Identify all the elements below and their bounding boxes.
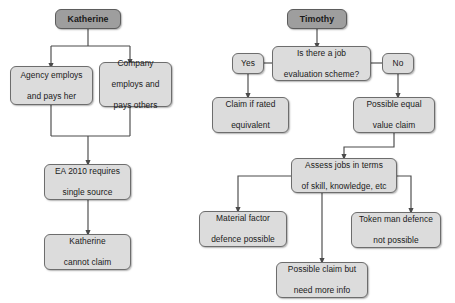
node-timothy-root[interactable]: Timothy (287, 9, 347, 29)
node-token-man-defence-label: Token man defencenot possible (355, 214, 437, 246)
node-claim-if-rated-equivalent-label: Claim if ratedequivalent (216, 99, 285, 131)
node-katherine-cannot-claim[interactable]: Katherinecannot claim (44, 234, 131, 270)
flowchart-canvas: Katherine Agency employsand pays her Com… (0, 0, 455, 303)
node-material-factor-defence[interactable]: Material factordefence possible (199, 211, 287, 247)
node-timothy-root-label: Timothy (291, 14, 343, 25)
node-job-evaluation-scheme[interactable]: Is there a jobevaluation scheme? (272, 46, 371, 81)
node-possible-claim-more-info[interactable]: Possible claim butneed more info (276, 262, 368, 298)
node-job-evaluation-scheme-label: Is there a jobevaluation scheme? (276, 48, 367, 80)
node-possible-claim-more-info-label: Possible claim butneed more info (280, 264, 364, 296)
node-katherine-root-label: Katherine (59, 14, 117, 25)
node-ea-2010-label: EA 2010 requiressingle source (48, 166, 127, 198)
node-katherine-root[interactable]: Katherine (55, 9, 121, 29)
node-branch-no-label: No (386, 58, 410, 69)
node-agency-employs[interactable]: Agency employsand pays her (10, 66, 93, 105)
node-ea-2010[interactable]: EA 2010 requiressingle source (44, 164, 131, 200)
edge-possible-equal-to-assess (344, 133, 394, 157)
node-katherine-cannot-claim-label: Katherinecannot claim (48, 236, 127, 268)
node-branch-yes[interactable]: Yes (232, 53, 264, 74)
node-agency-employs-label: Agency employsand pays her (14, 70, 89, 102)
node-claim-if-rated-equivalent[interactable]: Claim if ratedequivalent (212, 97, 289, 133)
node-assess-jobs[interactable]: Assess jobs in termsof skill, knowledge,… (291, 158, 397, 193)
node-assess-jobs-label: Assess jobs in termsof skill, knowledge,… (295, 160, 393, 192)
node-company-employs-label: Companyemploys andpays others (103, 58, 168, 111)
node-material-factor-defence-label: Material factordefence possible (203, 213, 283, 245)
edge-assess-to-material-factor (238, 176, 291, 210)
node-token-man-defence[interactable]: Token man defencenot possible (351, 212, 441, 248)
node-possible-equal-value-claim[interactable]: Possible equalvalue claim (353, 97, 435, 133)
node-branch-yes-label: Yes (236, 58, 260, 69)
node-branch-no[interactable]: No (382, 53, 414, 74)
node-company-employs[interactable]: Companyemploys andpays others (99, 62, 172, 107)
node-possible-equal-value-claim-label: Possible equalvalue claim (357, 99, 431, 131)
edge-assess-to-token-man (397, 176, 411, 211)
